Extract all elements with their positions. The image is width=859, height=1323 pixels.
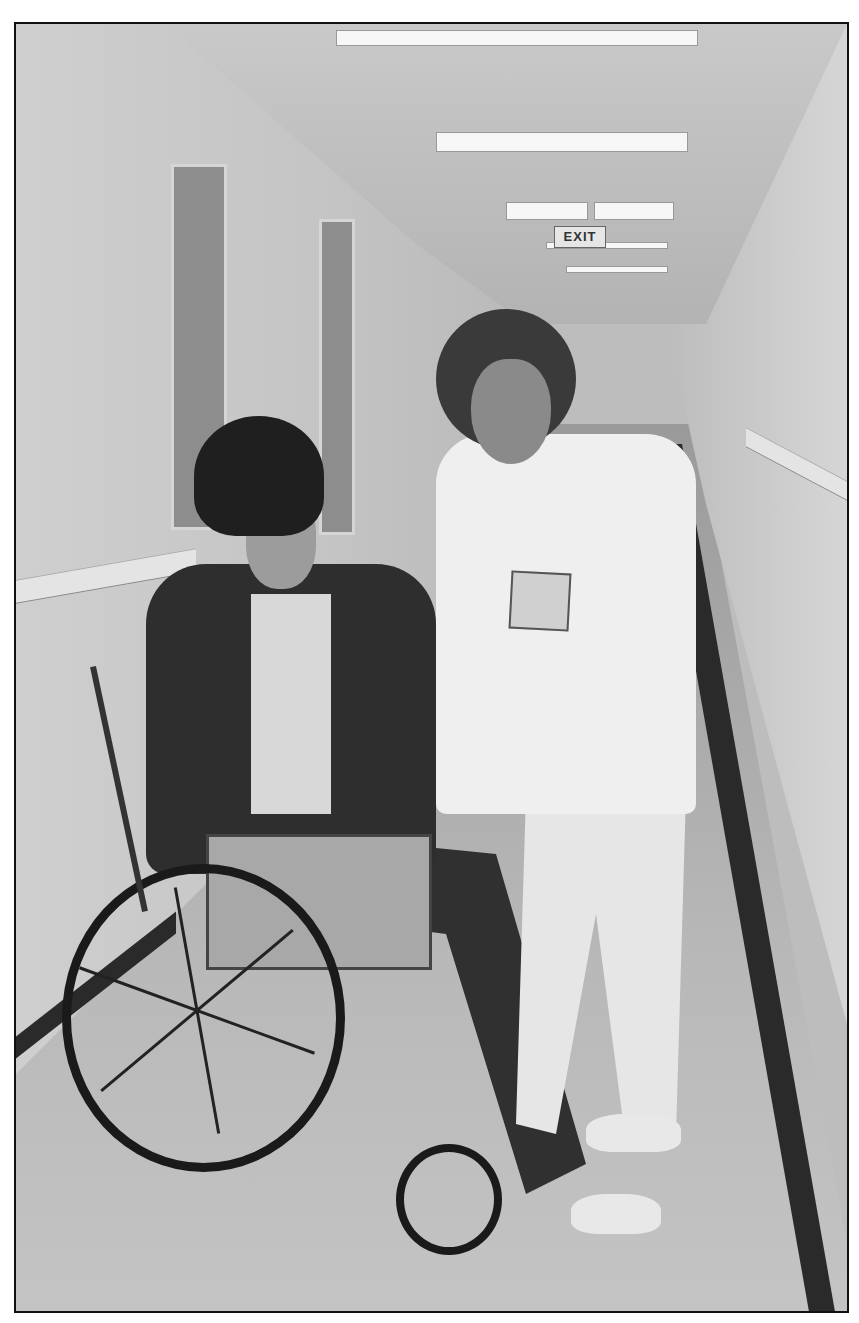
patient-knit-cap <box>194 416 324 536</box>
patient-shirt <box>251 594 331 814</box>
wheelchair-caster-wheel <box>396 1144 502 1255</box>
nurse-shoe <box>586 1114 681 1152</box>
photo-frame: EXIT <box>14 22 849 1313</box>
id-badge <box>509 570 572 631</box>
nurse-face <box>471 359 551 464</box>
exit-sign: EXIT <box>554 226 606 248</box>
ceiling-light <box>506 202 588 220</box>
wheelchair-large-wheel <box>62 864 345 1172</box>
ceiling-light <box>566 266 668 273</box>
ceiling-light <box>336 30 698 46</box>
door <box>319 219 355 535</box>
ceiling-light <box>436 132 688 152</box>
ceiling-light <box>594 202 674 220</box>
patient-slipper <box>571 1194 661 1234</box>
